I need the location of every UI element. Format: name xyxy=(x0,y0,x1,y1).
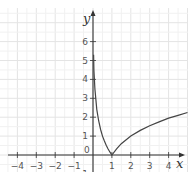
x-tick-label: −4 xyxy=(11,161,25,171)
tick-labels: −4−3−2−11234−1123456 xyxy=(11,37,172,172)
y-tick-label: 6 xyxy=(82,37,88,47)
grid-lines xyxy=(0,8,188,172)
x-tick-label: −2 xyxy=(49,161,62,171)
axes xyxy=(8,10,185,172)
x-tick-label: 1 xyxy=(109,161,115,171)
y-axis-label: y xyxy=(82,11,91,26)
origin-label: 0 xyxy=(84,145,90,155)
chart: −4−3−2−11234−1123456 x y 0 xyxy=(0,0,188,172)
x-tick-label: 2 xyxy=(128,161,134,171)
x-tick-label: 4 xyxy=(166,161,172,171)
y-tick-label: −1 xyxy=(75,169,88,172)
x-tick-label: −3 xyxy=(30,161,43,171)
y-tick-label: 2 xyxy=(82,112,88,122)
y-tick-label: 3 xyxy=(82,93,88,103)
y-tick-label: 1 xyxy=(82,131,88,141)
y-tick-label: 5 xyxy=(82,56,88,66)
x-axis-label: x xyxy=(176,156,184,171)
x-tick-label: 3 xyxy=(147,161,153,171)
y-tick-label: 4 xyxy=(82,74,88,84)
